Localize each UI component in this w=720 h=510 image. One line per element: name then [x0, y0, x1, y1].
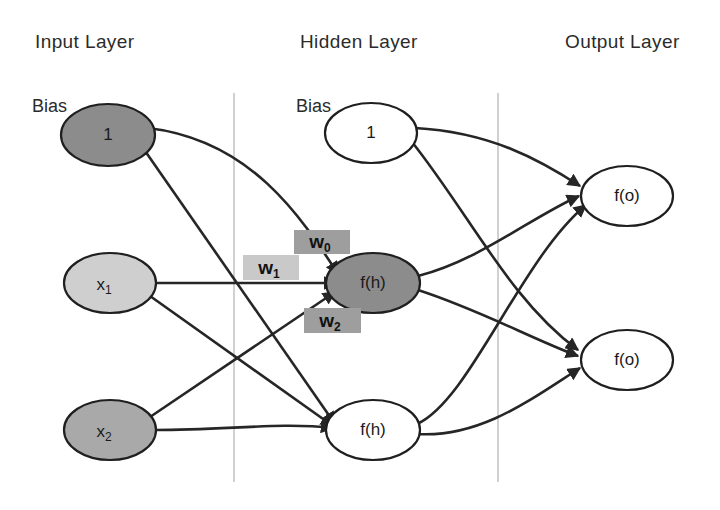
node-input-bias: 1	[61, 104, 155, 166]
node-input-x2: x2	[64, 400, 156, 460]
node-hidden-1: f(h)	[326, 253, 420, 313]
node-output-1: f(o)	[581, 166, 673, 226]
network-canvas: Input Layer Hidden Layer Output Layer	[0, 0, 720, 510]
edge-input-bias-to-hidden-2	[143, 148, 335, 424]
weight-label-w1: w1	[243, 255, 299, 281]
node-hidden-1-label: f(h)	[360, 273, 386, 292]
hidden-bias-caption: Bias	[296, 96, 331, 116]
input-bias-caption: Bias	[32, 96, 67, 116]
node-hidden-2-label: f(h)	[360, 420, 386, 439]
weight-label-w0: w0	[294, 230, 350, 255]
edge-x2-to-hidden-2	[155, 426, 333, 430]
weight-label-w2: w2	[304, 308, 361, 334]
layer-title-input: Input Layer	[35, 31, 135, 52]
layer-title-hidden: Hidden Layer	[300, 31, 418, 52]
node-hidden-bias: 1	[325, 103, 417, 163]
node-output-2-label: f(o)	[614, 350, 640, 369]
node-hidden-bias-label: 1	[366, 123, 375, 142]
node-hidden-2: f(h)	[326, 400, 420, 460]
neural-network-diagram: Input Layer Hidden Layer Output Layer	[0, 0, 720, 510]
node-output-1-label: f(o)	[614, 186, 640, 205]
node-input-x1: x1	[64, 253, 156, 313]
node-input-bias-label: 1	[103, 125, 112, 144]
layer-title-output: Output Layer	[565, 31, 680, 52]
node-output-2: f(o)	[581, 330, 673, 390]
